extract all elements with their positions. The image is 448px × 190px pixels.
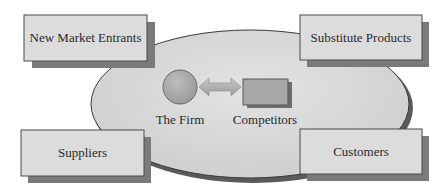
competitors-rect-icon [243, 79, 288, 105]
force-box-substitute-products: Substitute Products [300, 15, 429, 67]
firm-circle-icon [163, 70, 197, 104]
force-label: Suppliers [58, 145, 107, 160]
force-box-new-market-entrants: New Market Entrants [24, 15, 155, 68]
force-label: New Market Entrants [30, 30, 142, 45]
firm-label: The Firm [156, 112, 205, 127]
force-box-customers: Customers [300, 129, 429, 181]
competitors-label: Competitors [233, 112, 297, 127]
force-label: Substitute Products [311, 30, 412, 45]
force-label: Customers [333, 144, 389, 159]
porter-diagram: The Firm Competitors New Market Entrants… [0, 0, 448, 190]
force-box-suppliers: Suppliers [21, 130, 151, 183]
